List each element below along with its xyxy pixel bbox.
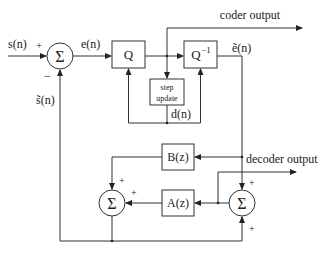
error-label: e(n)	[81, 37, 100, 51]
sum2-plus-top: +	[119, 175, 125, 186]
step-label: d(n)	[171, 107, 191, 121]
step-update-block: step update	[150, 79, 184, 105]
sum3-plus-bottom: +	[249, 223, 255, 234]
estimate-label: s̃(n)	[36, 93, 55, 107]
summing-junction-predictor: Σ	[99, 190, 125, 216]
svg-text:Σ: Σ	[107, 195, 116, 212]
a-filter-block: A(z)	[162, 190, 194, 216]
svg-text:update: update	[156, 94, 178, 103]
input-label: s(n)	[8, 37, 27, 51]
summing-junction-input: Σ	[47, 43, 73, 69]
quantized-error-label: ẽ(n)	[232, 41, 251, 55]
svg-text:A(z): A(z)	[167, 196, 189, 210]
svg-text:B(z): B(z)	[167, 150, 188, 164]
b-filter-block: B(z)	[162, 144, 194, 170]
sigma-symbol: Σ	[55, 48, 64, 65]
sum1-plus-sign: +	[36, 39, 42, 51]
inverse-quantizer-block: Q −1	[184, 41, 217, 68]
summing-junction-reconstruction: Σ	[229, 190, 255, 216]
svg-text:Σ: Σ	[237, 195, 246, 212]
svg-text:step: step	[161, 83, 174, 92]
svg-text:Q: Q	[191, 47, 201, 62]
sum2-plus-right: +	[131, 187, 137, 198]
sum1-minus-sign: −	[44, 69, 51, 83]
quantizer-block: Q	[112, 41, 145, 68]
adpcm-block-diagram: s(n) + Σ − e(n) Q coder output step upda…	[0, 0, 327, 254]
decoder-output-label: decoder output	[246, 152, 318, 166]
sum3-plus-top: +	[249, 177, 255, 188]
coder-output-label: coder output	[220, 8, 281, 22]
svg-text:Q: Q	[124, 47, 134, 62]
svg-text:−1: −1	[201, 45, 211, 55]
